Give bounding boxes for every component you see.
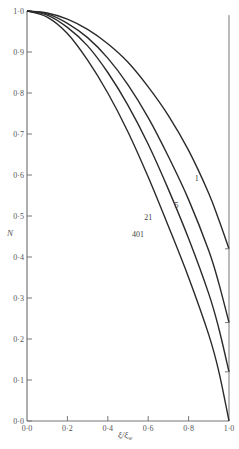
y-axis-label: N (6, 228, 14, 238)
y-tick-label: 0·8 (13, 89, 24, 98)
curve-1 (27, 11, 229, 249)
x-tick-label: 1·0 (224, 424, 235, 433)
y-tick-label: 0·4 (13, 253, 24, 262)
y-tick-label: 0·3 (13, 294, 24, 303)
curves (27, 11, 229, 421)
curve-5 (27, 11, 229, 323)
curve-label-5: 5 (174, 201, 178, 210)
y-tick-label: 0·9 (13, 48, 24, 57)
x-axis-label-subscript: w (128, 435, 132, 441)
curve-label-1: 1 (195, 174, 199, 183)
y-tick-label: 0·5 (13, 212, 24, 221)
axes (27, 11, 229, 421)
x-axis-label-main: ξ/ξ (118, 430, 128, 440)
x-tick-label: 0·6 (143, 424, 154, 433)
ticks: 0·00·10·20·30·40·50·60·70·80·91·00·00·20… (13, 7, 234, 433)
curve-label-21: 21 (144, 213, 152, 222)
x-tick-label: 0·8 (183, 424, 194, 433)
curve-21 (27, 11, 229, 372)
y-tick-label: 0·6 (13, 171, 24, 180)
y-tick-label: 0·2 (13, 335, 24, 344)
y-tick-label: 1·0 (13, 7, 24, 16)
y-tick-label: 0·7 (13, 130, 24, 139)
y-tick-label: 0·1 (13, 376, 24, 385)
curve-401 (27, 11, 229, 421)
curve-label-401: 401 (132, 230, 144, 239)
x-tick-label: 0·0 (22, 424, 33, 433)
x-axis-label: ξ/ξw (118, 430, 132, 441)
x-tick-label: 0·2 (62, 424, 73, 433)
x-tick-label: 0·4 (102, 424, 113, 433)
chart-canvas: 0·00·10·20·30·40·50·60·70·80·91·00·00·20… (0, 0, 239, 449)
